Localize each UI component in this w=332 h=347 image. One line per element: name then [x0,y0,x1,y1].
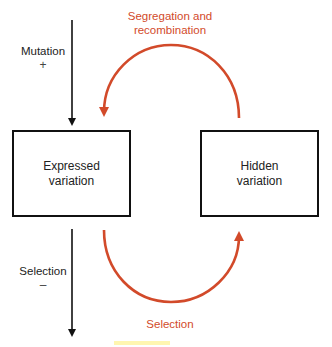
segregation-label-group: Segregation and recombination [110,9,230,37]
selection-arc [104,230,239,302]
selection-arc-label: Selection [130,317,210,331]
selection-down-sign: – [17,278,69,292]
hidden-variation-box: Hidden variation [200,130,319,217]
expressed-variation-box: Expressed variation [12,130,131,217]
mutation-sign: + [18,58,68,72]
expressed-line1: Expressed [43,159,100,174]
mutation-label-group: Mutation + [18,44,68,72]
segregation-arc [104,45,239,118]
mutation-label: Mutation [18,44,68,58]
hidden-line1: Hidden [237,159,282,174]
hidden-line2: variation [237,174,282,189]
selection-down-label: Selection [17,264,69,278]
segregation-label-line2: recombination [110,23,230,37]
segregation-label-line1: Segregation and [110,9,230,23]
highlight-mark [114,341,170,345]
selection-down-label-group: Selection – [17,264,69,292]
expressed-line2: variation [43,174,100,189]
